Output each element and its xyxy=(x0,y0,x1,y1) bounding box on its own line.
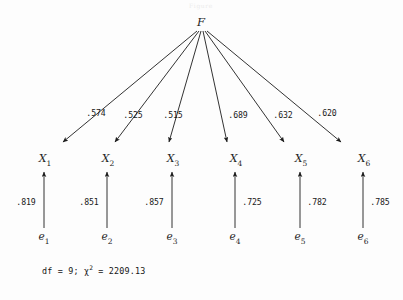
indicator-subscript-1: 1 xyxy=(47,159,52,168)
path-diagram-figure: Figure F .574 .525 .515 .689 .632 .620 xyxy=(0,0,403,300)
factor-path-arrow-2 xyxy=(115,31,199,142)
indicator-label-3: X xyxy=(167,152,175,165)
indicator-subscript-3: 3 xyxy=(175,159,180,168)
indicator-node-2: X2 xyxy=(102,152,115,167)
factor-loading-6: .620 xyxy=(317,108,336,118)
indicator-label-2: X xyxy=(102,152,110,165)
error-subscript-1: 1 xyxy=(45,237,50,246)
chi-value-text: = 2209.13 xyxy=(93,266,145,276)
indicator-subscript-6: 6 xyxy=(366,159,371,168)
error-subscript-5: 5 xyxy=(301,237,306,246)
factor-path-arrow-1 xyxy=(63,31,197,142)
error-loading-3: .857 xyxy=(144,197,163,207)
indicator-subscript-2: 2 xyxy=(110,159,115,168)
diagram-canvas xyxy=(0,0,403,300)
error-node-6: e6 xyxy=(357,230,368,245)
indicator-label-4: X xyxy=(230,152,238,165)
indicator-label-1: X xyxy=(39,152,47,165)
error-node-3: e3 xyxy=(166,230,177,245)
indicator-label-5: X xyxy=(295,152,303,165)
error-loading-1: .819 xyxy=(16,197,35,207)
indicator-node-5: X5 xyxy=(295,152,308,167)
error-loading-6: .785 xyxy=(370,197,389,207)
indicator-node-1: X1 xyxy=(39,152,52,167)
fit-statistics-line: df = 9; χ2 = 2209.13 xyxy=(42,264,146,276)
error-node-1: e1 xyxy=(38,230,49,245)
error-subscript-2: 2 xyxy=(108,237,113,246)
error-loading-4: .725 xyxy=(242,197,261,207)
indicator-subscript-4: 4 xyxy=(238,159,243,168)
df-text: df = 9; xyxy=(42,266,84,276)
indicator-subscript-5: 5 xyxy=(303,159,308,168)
factor-path-arrow-6 xyxy=(207,31,341,142)
factor-loading-2: .525 xyxy=(123,110,142,120)
error-loading-2: .851 xyxy=(79,197,98,207)
factor-loading-1: .574 xyxy=(86,108,105,118)
indicator-node-4: X4 xyxy=(230,152,243,167)
error-subscript-3: 3 xyxy=(173,237,178,246)
error-subscript-4: 4 xyxy=(236,237,241,246)
error-node-5: e5 xyxy=(294,230,305,245)
indicator-node-6: X6 xyxy=(358,152,371,167)
error-node-2: e2 xyxy=(101,230,112,245)
factor-path-arrow-3 xyxy=(169,31,201,142)
factor-to-indicator-arrows xyxy=(63,31,341,142)
factor-loading-4: .689 xyxy=(228,110,247,120)
error-loading-5: .782 xyxy=(307,197,326,207)
error-subscript-6: 6 xyxy=(364,237,369,246)
factor-loading-3: .515 xyxy=(163,110,182,120)
factor-path-arrow-4 xyxy=(203,31,227,142)
indicator-label-6: X xyxy=(358,152,366,165)
latent-factor-node: F xyxy=(197,15,205,29)
error-node-4: e4 xyxy=(229,230,240,245)
factor-path-arrow-5 xyxy=(205,31,284,142)
indicator-node-3: X3 xyxy=(167,152,180,167)
factor-loading-5: .632 xyxy=(273,110,292,120)
